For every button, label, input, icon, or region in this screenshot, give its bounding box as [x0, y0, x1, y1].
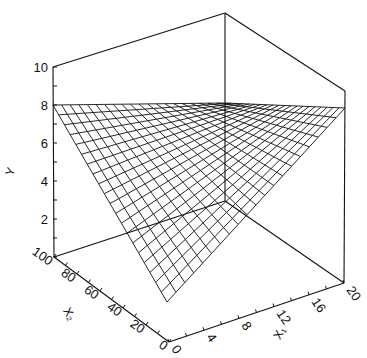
x1-axis-label: X₁ — [270, 324, 288, 341]
x1-tick-label: 12 — [274, 307, 295, 327]
x2-axis-label: X₂ — [60, 305, 79, 323]
x2-tick-label: 80 — [58, 265, 78, 286]
x1-tick-label: 8 — [239, 319, 255, 334]
mesh-line — [156, 108, 333, 283]
y-tick-label: 8 — [41, 98, 48, 113]
surface-plot: 246810020406080100048121620 Y X₂ X₁ — [0, 0, 367, 358]
plot-canvas: 246810020406080100048121620 Y X₂ X₁ — [0, 0, 367, 358]
y-tick-label: 2 — [41, 212, 48, 227]
x2-tick-label: 20 — [127, 316, 147, 337]
y-axis-label: Y — [2, 165, 18, 177]
x2-tick-label: 60 — [81, 282, 101, 303]
x1-tick-label: 16 — [309, 295, 330, 315]
y-tick-label: 6 — [41, 136, 48, 151]
x2-tick-label: 0 — [156, 337, 171, 353]
x2-tick-label: 100 — [30, 244, 56, 269]
x1-tick-label: 20 — [344, 283, 365, 303]
x2-tick-label: 40 — [104, 299, 124, 320]
surface-mesh — [53, 103, 345, 302]
y-tick-label: 4 — [41, 174, 48, 189]
x1-tick-label: 4 — [204, 330, 220, 345]
y-tick-label: 10 — [34, 60, 48, 75]
mesh-line — [167, 108, 345, 302]
x1-tick-label: 0 — [169, 342, 185, 357]
